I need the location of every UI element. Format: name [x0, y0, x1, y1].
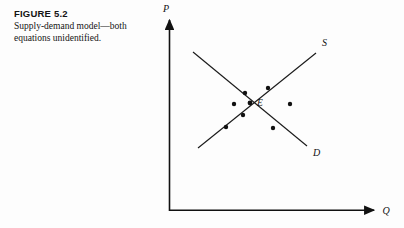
- figure-page: FIGURE 5.2 Supply-demand model—both equa…: [0, 0, 404, 228]
- supply-demand-plot: P Q S D E: [0, 0, 404, 228]
- x-axis-label: Q: [382, 205, 390, 216]
- demand-curve: [193, 52, 307, 146]
- scatter-point: [243, 91, 247, 95]
- scatter-points: [224, 86, 292, 130]
- equilibrium-label: E: [256, 98, 263, 108]
- scatter-point: [271, 126, 275, 130]
- plot-svg: P Q S D E: [0, 0, 404, 228]
- y-axis-label: P: [162, 3, 169, 14]
- supply-curve-label: S: [322, 37, 327, 48]
- scatter-point: [224, 125, 228, 129]
- scatter-point: [232, 102, 236, 106]
- equilibrium-point: [248, 101, 253, 106]
- scatter-point: [288, 102, 292, 106]
- scatter-point: [241, 113, 245, 117]
- demand-curve-label: D: [312, 147, 321, 158]
- scatter-point: [266, 86, 270, 90]
